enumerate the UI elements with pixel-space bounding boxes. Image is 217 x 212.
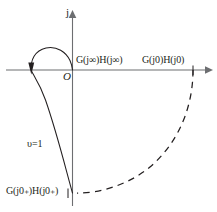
real-axis-arrowhead-icon [205,66,213,74]
nyquist-dashed-arc [68,66,193,199]
plot-canvas [0,0,217,212]
imaginary-axis [69,10,77,206]
label-g-zero-plus: G(j0₊)H(j0₊) [6,186,58,196]
label-system-type: υ=1 [27,139,43,149]
origin-label: O [63,71,71,82]
dashed-arc-path [77,70,193,193]
locus-direction-arrowhead-icon [28,63,34,75]
imaginary-axis-arrowhead-icon [69,10,77,18]
label-g-infinity: G(j∞)H(j∞) [76,55,123,65]
real-axis [6,66,213,74]
label-g-zero: G(j0)H(j0) [142,55,184,65]
imaginary-axis-label: j [66,7,69,18]
nyquist-plot-figure: j O G(j∞)H(j∞) G(j0)H(j0) υ=1 G(j0₊)H(j0… [0,0,217,212]
